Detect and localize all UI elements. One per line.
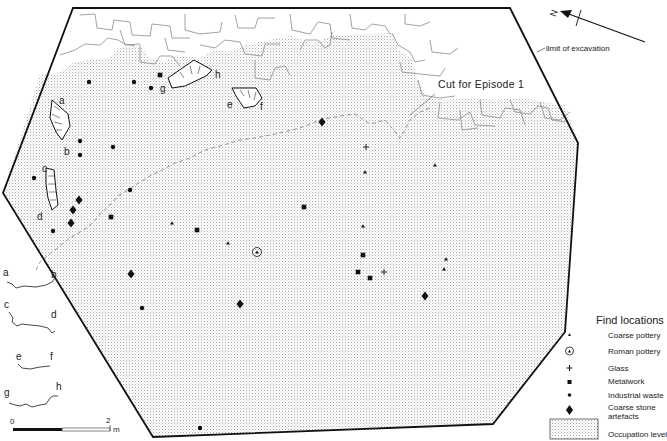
industrial-waste-marker [140, 306, 144, 310]
scale-bar: 0 2 m [10, 416, 120, 434]
legend-stipple-box-icon [550, 419, 598, 439]
limit-leader [537, 48, 545, 52]
industrial-waste-marker [78, 153, 82, 157]
industrial-waste-marker [111, 145, 115, 149]
north-label: N [548, 8, 560, 18]
legend-label-coarse-stone-2: artefacts [608, 412, 639, 421]
legend-symbols [550, 333, 598, 439]
metalwork-marker [368, 276, 373, 281]
label-g: g [160, 83, 166, 94]
legend-label-occupation-level: Occupation level [608, 430, 667, 439]
legend-label-glass: Glass [608, 364, 628, 373]
industrial-waste-marker [87, 80, 91, 84]
industrial-waste-marker [32, 176, 36, 180]
industrial-waste-marker [78, 139, 82, 143]
metalwork-marker [302, 205, 307, 210]
section-e-f [18, 364, 50, 369]
occupation-level-area [3, 33, 578, 437]
section-g-label: g [4, 387, 10, 398]
label-b: b [64, 146, 70, 157]
section-b-label: b [51, 269, 57, 280]
industrial-waste-marker [51, 229, 55, 233]
legend-label-coarse-stone-1: Coarse stone [608, 403, 656, 412]
section-d-label: d [51, 309, 57, 320]
legend-label-industrial-waste: Industrial waste [608, 391, 664, 400]
metalwork-marker [109, 215, 114, 220]
metalwork-marker [158, 73, 163, 78]
label-d: d [37, 211, 43, 222]
limit-of-excavation-label: limit of excavation [546, 44, 610, 53]
label-a: a [59, 95, 65, 106]
north-arrow: N [548, 8, 645, 42]
legend-title: Find locations [596, 314, 664, 326]
metalwork-marker [195, 228, 200, 233]
section-a-label: a [3, 267, 9, 278]
section-c-d [9, 312, 55, 333]
industrial-waste-marker [128, 188, 132, 192]
legend-plus-icon [567, 365, 573, 371]
label-f: f [260, 101, 263, 112]
section-f-label: f [50, 351, 53, 362]
scale-unit-label: m [113, 425, 120, 434]
industrial-waste-marker [132, 80, 136, 84]
section-profiles [7, 278, 58, 407]
legend-label-metalwork: Metalwork [608, 377, 644, 386]
cut-for-episode-label: Cut for Episode 1 [438, 78, 524, 90]
legend-diamond-icon [566, 405, 573, 415]
label-c: c [42, 163, 47, 174]
legend-square-icon [568, 380, 572, 384]
legend-triangle-icon [568, 333, 571, 336]
legend-label-roman-pottery: Roman pottery [608, 347, 660, 356]
scale-end-label: 2 [106, 416, 111, 425]
scale-start-label: 0 [10, 417, 15, 426]
section-g-h [9, 396, 58, 407]
section-c-label: c [4, 299, 9, 310]
label-h: h [215, 69, 221, 80]
legend-dot-icon [568, 393, 572, 397]
legend-label-coarse-pottery: Coarse pottery [608, 331, 660, 340]
section-h-label: h [56, 381, 62, 392]
industrial-waste-marker [198, 426, 202, 430]
industrial-waste-marker [149, 86, 153, 90]
section-e-label: e [16, 351, 22, 362]
metalwork-marker [361, 253, 366, 258]
label-e: e [227, 99, 233, 110]
metalwork-marker [356, 270, 361, 275]
